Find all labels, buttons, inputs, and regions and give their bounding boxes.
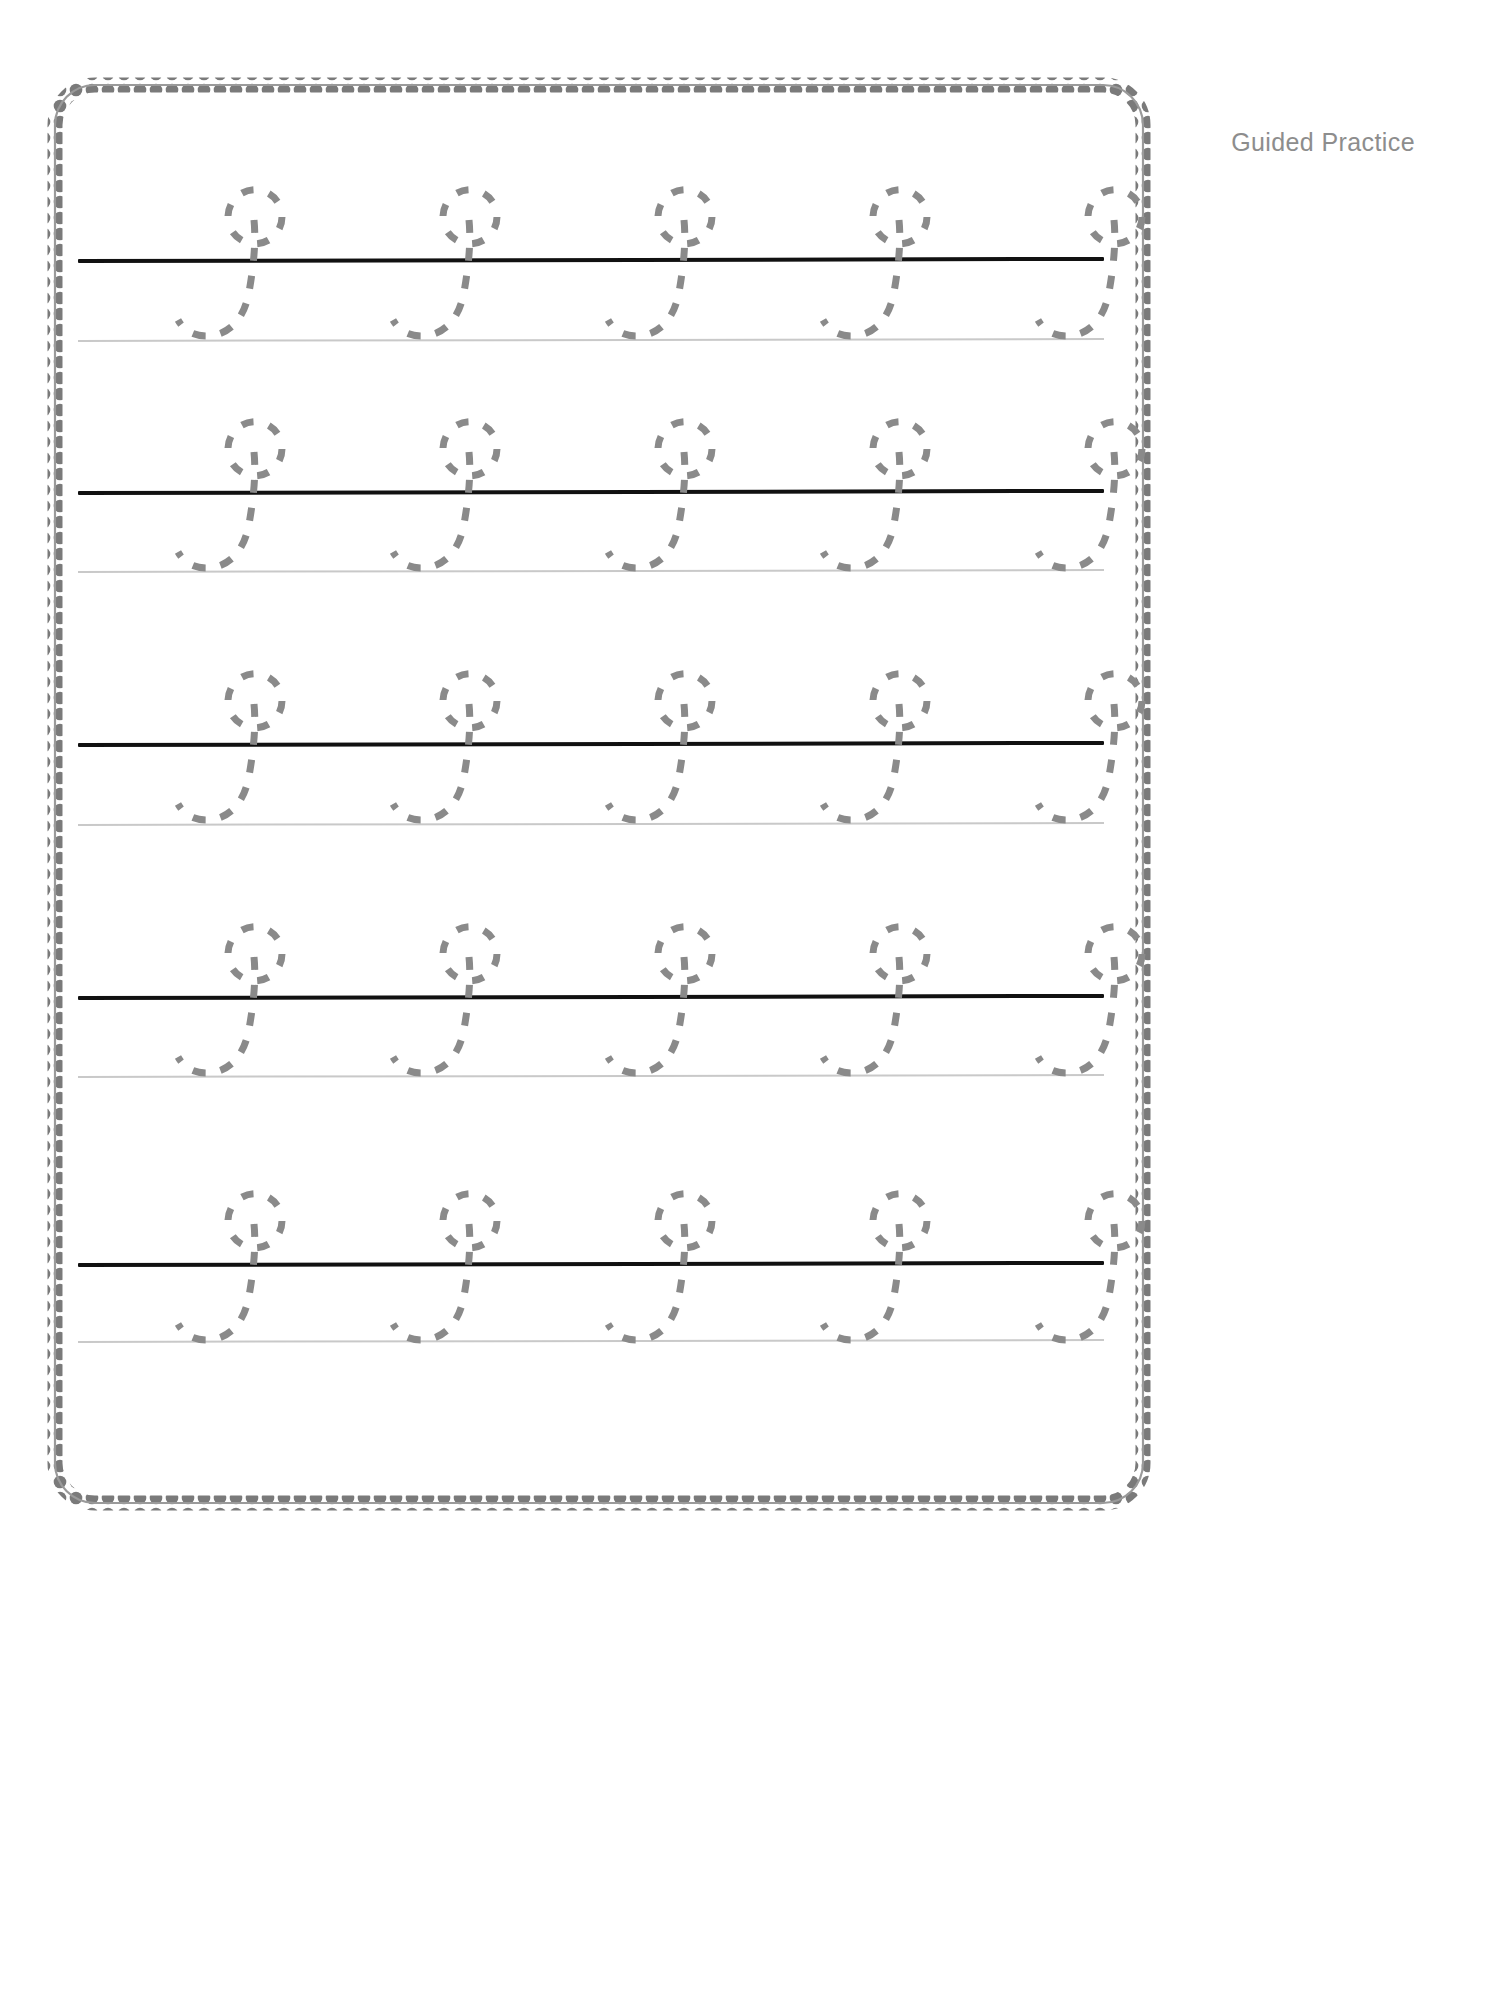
letter-loop-stroke bbox=[658, 927, 712, 981]
letter-loop-stroke bbox=[873, 1194, 927, 1248]
letter-loop-stroke bbox=[443, 1194, 497, 1248]
letter-trace-svg bbox=[365, 905, 565, 1145]
letter-loop-stroke bbox=[1088, 927, 1142, 981]
letter-loop-stroke bbox=[228, 674, 282, 728]
letter-trace-svg bbox=[150, 1172, 350, 1412]
letter-loop-stroke bbox=[443, 190, 497, 244]
letter-loop-stroke bbox=[1088, 1194, 1142, 1248]
letter-loop-stroke bbox=[228, 190, 282, 244]
letter-loop-stroke bbox=[443, 422, 497, 476]
letter-trace-svg bbox=[1010, 905, 1210, 1145]
letter-loop-stroke bbox=[1088, 674, 1142, 728]
letter-trace-svg bbox=[365, 1172, 565, 1412]
letter-trace-svg bbox=[1010, 1172, 1210, 1412]
traceable-letter-j[interactable] bbox=[795, 905, 995, 1145]
letter-loop-stroke bbox=[228, 927, 282, 981]
letter-trace-svg bbox=[580, 1172, 780, 1412]
letter-trace-svg bbox=[795, 905, 995, 1145]
letter-loop-stroke bbox=[1088, 422, 1142, 476]
worksheet-page: Guided Practice bbox=[0, 0, 1497, 1993]
letter-loop-stroke bbox=[658, 422, 712, 476]
letter-loop-stroke bbox=[228, 1194, 282, 1248]
letter-loop-stroke bbox=[443, 674, 497, 728]
letter-loop-stroke bbox=[658, 1194, 712, 1248]
traceable-letter-j[interactable] bbox=[150, 1172, 350, 1412]
practice-row-4 bbox=[0, 845, 1497, 1145]
traceable-letter-j[interactable] bbox=[1010, 1172, 1210, 1412]
practice-row-5 bbox=[0, 1112, 1497, 1412]
traceable-letter-j[interactable] bbox=[1010, 905, 1210, 1145]
letter-loop-stroke bbox=[1088, 190, 1142, 244]
traceable-letter-j[interactable] bbox=[365, 905, 565, 1145]
letter-loop-stroke bbox=[443, 927, 497, 981]
letter-loop-stroke bbox=[873, 927, 927, 981]
letter-loop-stroke bbox=[873, 674, 927, 728]
letter-loop-stroke bbox=[228, 422, 282, 476]
letter-loop-stroke bbox=[873, 190, 927, 244]
letter-trace-svg bbox=[150, 905, 350, 1145]
letter-loop-stroke bbox=[658, 190, 712, 244]
traceable-letter-j[interactable] bbox=[150, 905, 350, 1145]
letter-trace-svg bbox=[795, 1172, 995, 1412]
letter-loop-stroke bbox=[873, 422, 927, 476]
traceable-letter-j[interactable] bbox=[365, 1172, 565, 1412]
traceable-letter-j[interactable] bbox=[580, 1172, 780, 1412]
traceable-letter-j[interactable] bbox=[580, 905, 780, 1145]
letter-trace-svg bbox=[580, 905, 780, 1145]
letter-loop-stroke bbox=[658, 674, 712, 728]
traceable-letter-j[interactable] bbox=[795, 1172, 995, 1412]
